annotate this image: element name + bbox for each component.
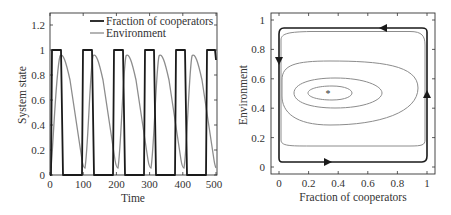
arrow-right-icon: [324, 158, 332, 166]
inner-orbits: [281, 32, 425, 147]
left-legend: Fraction of cooperators Environment: [90, 15, 214, 39]
left-xtick-label: 100: [75, 178, 92, 190]
orbit-line: [281, 32, 425, 147]
orbit-line: [282, 61, 418, 125]
right-ytick-label: 0.8: [251, 43, 265, 55]
left-y-axis-label: System state: [16, 66, 29, 124]
right-xtick-label: 0.6: [361, 177, 375, 189]
right-x-ticks: [279, 13, 427, 174]
right-y-axis-label: Environment: [237, 64, 249, 125]
left-ytick-label: 0.6: [31, 94, 45, 106]
left-ytick-label: 0.8: [31, 69, 45, 81]
left-xtick-label: 0: [47, 178, 53, 190]
right-axes-frame: [271, 13, 435, 174]
left-plot: 0 0.2 0.4 0.6 0.8 1 1.2 0 100 200 300 40…: [16, 13, 223, 204]
figure: 0 0.2 0.4 0.6 0.8 1 1.2 0 100 200 300 40…: [0, 0, 451, 215]
outer-orbit-line: [279, 28, 427, 162]
right-ytick-label: 0.4: [251, 102, 265, 114]
left-xtick-label: 400: [175, 178, 192, 190]
fixed-point-marker: *: [326, 88, 331, 99]
right-xtick-label: 0.2: [302, 177, 316, 189]
orbit-line: [294, 78, 382, 108]
left-x-axis-label: Time: [121, 192, 145, 204]
right-xtick-label: 0: [276, 177, 282, 189]
left-y-ticks: [50, 25, 217, 175]
left-xtick-label: 300: [141, 178, 158, 190]
right-xtick-label: 1: [424, 177, 430, 189]
left-xtick-label: 200: [108, 178, 125, 190]
left-ytick-label: 0.4: [31, 119, 45, 131]
left-ytick-label: 0.2: [31, 144, 45, 156]
right-ytick-label: 0.6: [251, 73, 265, 85]
right-xtick-label: 0.8: [391, 177, 405, 189]
right-ytick-label: 1: [260, 14, 266, 26]
left-ytick-label: 0: [40, 169, 46, 181]
right-y-ticks: [271, 20, 435, 167]
arrow-left-icon: [379, 24, 387, 32]
right-plot: 0 0.2 0.4 0.6 0.8 1 0 0.2 0.4 0.6 0.8 1 …: [237, 13, 435, 204]
arrow-down-icon: [275, 57, 283, 65]
left-ytick-label: 1.2: [31, 19, 45, 31]
arrow-up-icon: [423, 90, 431, 98]
right-xtick-label: 0.4: [331, 177, 345, 189]
legend-label-environment: Environment: [106, 27, 167, 39]
right-ytick-label: 0: [260, 161, 266, 173]
right-x-axis-label: Fraction of cooperators: [299, 191, 407, 204]
left-ytick-label: 1: [40, 44, 46, 56]
environment-series-line: [51, 55, 216, 168]
left-xtick-label: 500: [206, 178, 223, 190]
right-ytick-label: 0.2: [251, 132, 265, 144]
